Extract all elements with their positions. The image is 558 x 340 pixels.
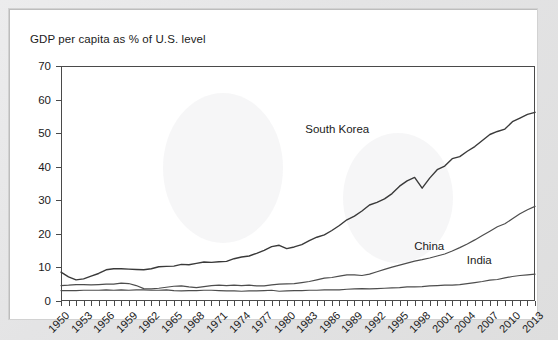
x-axis-tick <box>415 301 416 306</box>
series-label-south-korea: South Korea <box>305 123 369 135</box>
x-axis-tick <box>505 301 506 306</box>
x-axis-tick <box>400 301 401 306</box>
x-axis-tick <box>362 301 363 306</box>
x-axis-tick <box>354 301 355 306</box>
x-axis-tick <box>174 301 175 306</box>
y-axis-tick-label: 50 <box>11 127 51 139</box>
x-axis-tick <box>317 301 318 306</box>
y-axis-tick <box>56 234 61 235</box>
y-axis-tick-label: 20 <box>11 228 51 240</box>
x-axis-tick <box>61 301 62 306</box>
x-axis-tick <box>475 301 476 306</box>
y-axis-tick-label: 0 <box>11 295 51 307</box>
series-label-china: China <box>414 240 444 252</box>
y-axis-tick <box>56 267 61 268</box>
y-axis-tick-label: 40 <box>11 161 51 173</box>
y-axis-tick <box>56 167 61 168</box>
y-axis-tick <box>56 66 61 67</box>
x-axis-tick <box>437 301 438 306</box>
x-axis-tick <box>136 301 137 306</box>
x-axis-tick <box>257 301 258 306</box>
x-axis-tick <box>302 301 303 306</box>
x-axis-tick <box>144 301 145 306</box>
chart-page: GDP per capita as % of U.S. level 010203… <box>0 0 558 340</box>
x-axis-tick <box>497 301 498 306</box>
chart-title: GDP per capita as % of U.S. level <box>30 33 206 45</box>
x-axis-tick <box>181 301 182 306</box>
x-axis-tick <box>211 301 212 306</box>
x-axis-tick <box>189 301 190 306</box>
x-axis-tick <box>219 301 220 306</box>
x-axis-tick <box>129 301 130 306</box>
x-axis-tick <box>347 301 348 306</box>
x-axis-tick <box>84 301 85 306</box>
x-axis-tick <box>264 301 265 306</box>
y-axis-tick-label: 30 <box>11 194 51 206</box>
x-axis-tick <box>377 301 378 306</box>
y-axis-tick-label: 10 <box>11 261 51 273</box>
x-axis-tick <box>287 301 288 306</box>
x-axis-tick <box>121 301 122 306</box>
x-axis-tick <box>91 301 92 306</box>
x-axis-tick <box>460 301 461 306</box>
x-axis-tick <box>527 301 528 306</box>
x-axis-tick <box>535 301 536 306</box>
y-axis-tick <box>56 133 61 134</box>
x-axis-tick <box>242 301 243 306</box>
x-axis-tick <box>76 301 77 306</box>
x-axis-tick <box>151 301 152 306</box>
x-axis-tick <box>114 301 115 306</box>
x-axis-tick <box>234 301 235 306</box>
x-axis-tick <box>339 301 340 306</box>
x-axis-tick <box>385 301 386 306</box>
x-axis-tick <box>204 301 205 306</box>
y-axis-tick <box>56 100 61 101</box>
series-line-south-korea <box>61 112 535 280</box>
x-axis-tick <box>196 301 197 306</box>
plot-area: 0102030405060701950195319561959196219651… <box>61 66 535 301</box>
x-axis-tick <box>512 301 513 306</box>
series-line-china <box>61 206 535 289</box>
x-axis-tick <box>69 301 70 306</box>
y-axis-tick-label: 60 <box>11 94 51 106</box>
x-axis-tick <box>445 301 446 306</box>
x-axis-tick <box>272 301 273 306</box>
x-axis-tick <box>467 301 468 306</box>
x-axis-tick <box>369 301 370 306</box>
x-axis-tick <box>520 301 521 306</box>
x-axis-tick <box>482 301 483 306</box>
y-axis-tick-label: 70 <box>11 60 51 72</box>
x-axis-tick <box>106 301 107 306</box>
x-axis-tick <box>324 301 325 306</box>
x-axis-tick <box>407 301 408 306</box>
x-axis-tick <box>490 301 491 306</box>
chart-panel: GDP per capita as % of U.S. level 010203… <box>13 13 533 315</box>
x-axis-tick <box>249 301 250 306</box>
y-axis-tick <box>56 200 61 201</box>
x-axis-tick <box>166 301 167 306</box>
x-axis-tick <box>227 301 228 306</box>
x-axis-tick <box>99 301 100 306</box>
x-axis-tick <box>430 301 431 306</box>
x-axis-tick <box>159 301 160 306</box>
series-label-india: India <box>467 254 492 266</box>
x-axis-tick <box>294 301 295 306</box>
x-axis-tick <box>279 301 280 306</box>
series-lines <box>61 66 535 301</box>
x-axis-tick <box>422 301 423 306</box>
x-axis-tick <box>452 301 453 306</box>
x-axis-tick <box>392 301 393 306</box>
x-axis-tick <box>332 301 333 306</box>
x-axis-tick <box>309 301 310 306</box>
